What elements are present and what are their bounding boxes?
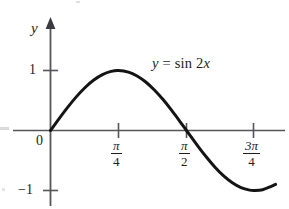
origin-label: 0 (36, 134, 43, 148)
x-tick-pi-over-4-denominator: 4 (111, 154, 122, 169)
x-tick-3pi-over-4-denominator: 4 (243, 154, 260, 169)
x-tick-pi-over-2-numerator: π (179, 139, 190, 154)
y-axis-arrow-icon (46, 17, 56, 29)
curve-equation-label: y = sin 2x (152, 56, 210, 71)
plot-canvas (0, 0, 289, 209)
x-tick-pi-over-4-numerator: π (111, 139, 122, 154)
equation-equals: = (162, 55, 170, 71)
equation-x: x (203, 55, 210, 71)
x-tick-pi-over-2-denominator: 2 (179, 154, 190, 169)
sine-curve-figure: y 0 1 −1 π 4 π 2 3π 4 y = sin 2x (0, 0, 289, 209)
x-tick-label-3pi-over-4: 3π 4 (243, 139, 260, 168)
y-tick-label-one: 1 (29, 63, 36, 77)
equation-y: y (152, 55, 159, 71)
x-tick-label-pi-over-2: π 2 (179, 139, 190, 168)
y-axis-label: y (31, 21, 38, 36)
x-tick-3pi-over-4-numerator: 3π (243, 139, 260, 154)
equation-sin-2: sin 2 (175, 55, 204, 71)
y-tick-label-negative-one: −1 (18, 183, 33, 197)
x-tick-label-pi-over-4: π 4 (111, 139, 122, 168)
